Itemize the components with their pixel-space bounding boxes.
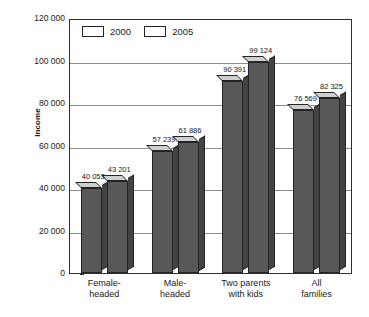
x-axis-label: Two parentswith kids (211, 278, 282, 300)
y-tick-label: 100 000 (15, 57, 65, 66)
x-axis-label: Allfamilies (281, 278, 352, 300)
bar[interactable]: 76 569 (293, 110, 314, 273)
bar-top-face (172, 136, 199, 142)
x-axis-labels: Female-headedMale-headedTwo parentswith … (69, 278, 352, 314)
x-axis-label-line: headed (69, 289, 140, 300)
bar-value-label: 82 325 (320, 83, 343, 91)
bar-top-face (75, 182, 102, 188)
bar-front-face (107, 181, 128, 273)
y-tick-mark (80, 274, 84, 275)
legend-label-2000: 2000 (110, 27, 131, 37)
bar-front-face (222, 81, 243, 273)
x-axis-label-line: All (281, 278, 352, 289)
bar-side-face (340, 92, 346, 270)
x-axis-label: Female-headed (69, 278, 140, 300)
bar-value-label: 43 201 (108, 166, 131, 174)
y-tick-label: 60 000 (15, 142, 65, 151)
x-axis-label-line: Female- (69, 278, 140, 289)
plot-area: 2000 2005 40 05343 20157 23961 88690 391… (69, 19, 352, 274)
bar-front-face (152, 151, 173, 273)
gridline (70, 63, 351, 64)
legend-swatch-2005 (144, 26, 166, 37)
bar-value-label: 40 053 (82, 173, 105, 181)
bar[interactable]: 82 325 (319, 98, 340, 273)
x-axis-label: Male-headed (140, 278, 211, 300)
x-axis-label-line: with kids (211, 289, 282, 300)
legend-swatch-2000 (82, 26, 104, 37)
bar[interactable]: 99 124 (248, 62, 269, 273)
y-tick-label: 80 000 (15, 99, 65, 108)
bar-front-face (178, 142, 199, 274)
bar-value-label: 61 886 (178, 127, 201, 135)
bar-top-face (216, 75, 243, 81)
bar-side-face (269, 56, 275, 270)
bar-front-face (293, 110, 314, 273)
legend: 2000 2005 (82, 26, 193, 37)
bar-front-face (319, 98, 340, 273)
income-bar-chart: Income 020 00040 00060 00080 000100 0001… (0, 0, 369, 317)
legend-item-2000[interactable]: 2000 (82, 26, 131, 37)
bar-top-face (101, 175, 128, 181)
bar[interactable]: 61 886 (178, 142, 199, 274)
legend-item-2005[interactable]: 2005 (144, 26, 193, 37)
bar-top-face (287, 104, 314, 110)
x-axis-label-line: families (281, 289, 352, 300)
bar-value-label: 76 569 (294, 95, 317, 103)
y-tick-label: 20 000 (15, 227, 65, 236)
y-tick-label: 0 (15, 269, 65, 278)
bar-top-face (146, 145, 173, 151)
bar[interactable]: 90 391 (222, 81, 243, 273)
x-axis-label-line: Male- (140, 278, 211, 289)
legend-label-2005: 2005 (172, 27, 193, 37)
y-axis-ticks: 020 00040 00060 00080 000100 000120 000 (15, 0, 65, 317)
bar-top-face (313, 92, 340, 98)
y-tick-label: 120 000 (15, 14, 65, 23)
bar[interactable]: 43 201 (107, 181, 128, 273)
bar[interactable]: 40 053 (81, 188, 102, 273)
bar-value-label: 90 391 (223, 66, 246, 74)
bar-value-label: 57 239 (152, 136, 175, 144)
bar-value-label: 99 124 (249, 47, 272, 55)
bar-top-face (242, 56, 269, 62)
x-axis-label-line: Two parents (211, 278, 282, 289)
bar-side-face (128, 175, 134, 270)
bar[interactable]: 57 239 (152, 151, 173, 273)
bar-front-face (248, 62, 269, 273)
bar-side-face (199, 135, 205, 270)
x-axis-label-line: headed (140, 289, 211, 300)
bar-front-face (81, 188, 102, 273)
y-tick-label: 40 000 (15, 184, 65, 193)
